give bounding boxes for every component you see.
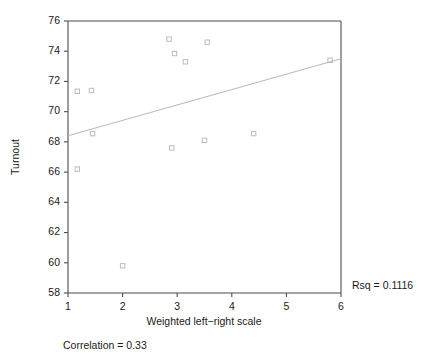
y-tick-label: 72: [48, 74, 60, 86]
x-tick-label: 6: [338, 300, 344, 312]
y-tick-label: 74: [48, 44, 60, 56]
x-tick-label: 3: [174, 300, 180, 312]
x-tick-label: 1: [65, 300, 71, 312]
y-tick-label: 62: [48, 225, 60, 237]
y-axis-title: Turnout: [9, 139, 21, 175]
x-tick-label: 2: [120, 300, 126, 312]
y-tick-label: 66: [48, 165, 60, 177]
y-tick-label: 60: [48, 256, 60, 268]
y-tick-label: 76: [48, 14, 60, 26]
y-tick-label: 68: [48, 135, 60, 147]
rsq-annotation: Rsq = 0.1116: [352, 279, 413, 291]
y-tick-label: 70: [48, 104, 60, 116]
x-tick-label: 4: [229, 300, 235, 312]
scatter-plot-figure: 58606264666870727476 123456 Weighted lef…: [0, 0, 436, 358]
y-tick-label: 58: [48, 286, 60, 298]
y-tick-label: 64: [48, 195, 60, 207]
chart-canvas: 58606264666870727476 123456 Weighted lef…: [0, 0, 436, 358]
x-tick-label: 5: [283, 300, 289, 312]
x-axis-title: Weighted left−right scale: [146, 315, 261, 327]
correlation-annotation: Correlation = 0.33: [63, 339, 147, 351]
